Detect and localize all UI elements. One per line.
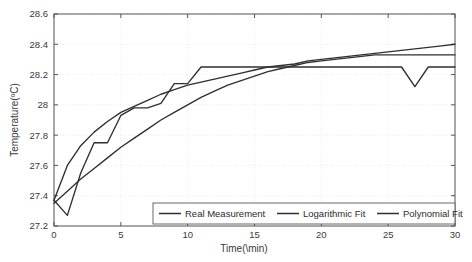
grid-lines	[54, 14, 455, 226]
y-tick-label: 27.6	[30, 160, 49, 171]
chart-figure: 27.227.427.627.82828.228.428.60510152025…	[0, 0, 472, 262]
x-tick-label: 20	[316, 229, 327, 240]
y-tick-label: 27.8	[30, 130, 49, 141]
x-tick-label: 10	[182, 229, 193, 240]
x-tick-label: 25	[383, 229, 394, 240]
y-tick-label: 28.2	[30, 69, 49, 80]
y-tick-label: 28.4	[30, 39, 49, 50]
x-tick-label: 0	[51, 229, 56, 240]
y-axis-title: Temperature(ºC)	[9, 83, 20, 157]
chart-legend: Real MeasurementLogarithmic FitPolynomia…	[153, 203, 463, 224]
legend-item-label: Polynomial Fit	[403, 208, 463, 219]
x-tick-label: 15	[249, 229, 260, 240]
x-axis-title: Time(\min)	[220, 243, 267, 254]
x-tick-label: 5	[118, 229, 123, 240]
x-tick-label: 30	[450, 229, 461, 240]
data-series	[54, 44, 455, 215]
temperature-line-chart: 27.227.427.627.82828.228.428.60510152025…	[0, 0, 472, 262]
y-tick-label: 27.4	[30, 190, 49, 201]
legend-item-label: Logarithmic Fit	[303, 208, 366, 219]
y-tick-label: 28	[37, 99, 48, 110]
legend-item-label: Real Measurement	[185, 208, 266, 219]
y-tick-label: 28.6	[30, 8, 49, 19]
y-tick-label: 27.2	[30, 220, 49, 231]
